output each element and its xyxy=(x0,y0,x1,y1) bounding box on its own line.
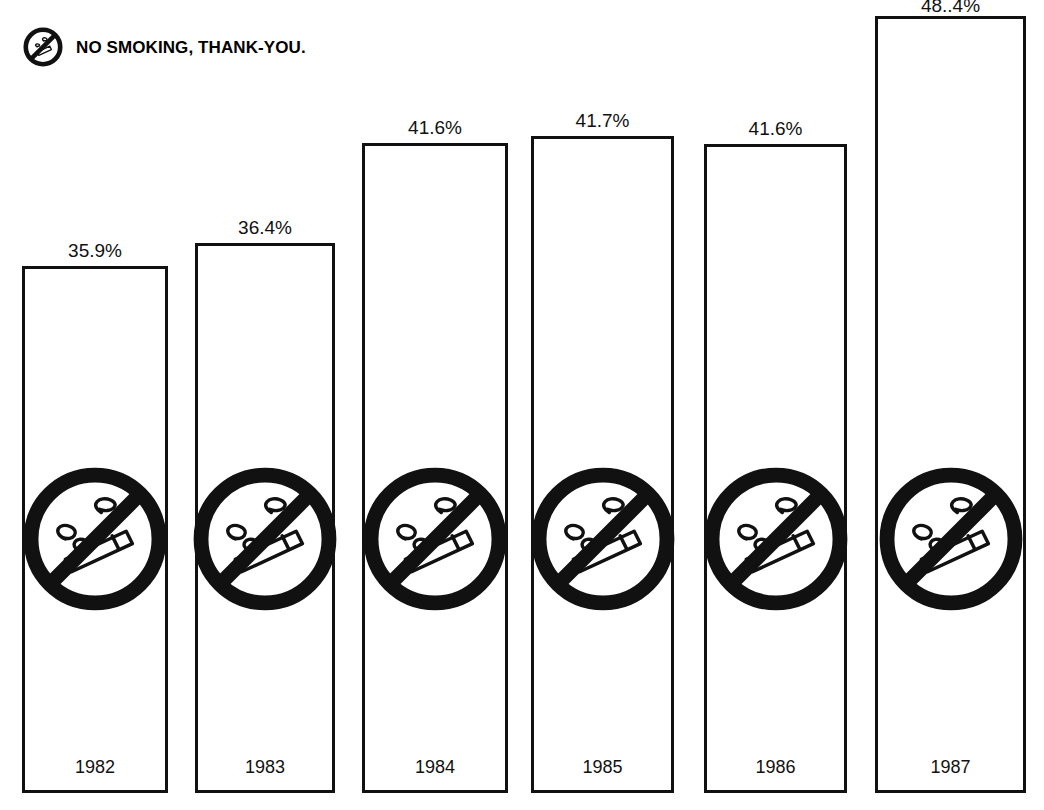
bar-group: 41.6% 1984 xyxy=(362,120,508,793)
bar-group: 36.4% 1983 xyxy=(195,220,335,793)
table-row[interactable]: 1983 xyxy=(195,243,335,793)
bar-group: 41.6% 1986 xyxy=(704,121,847,793)
bar-value-label: 41.6% xyxy=(704,119,847,138)
no-smoking-icon xyxy=(357,461,513,617)
bar-year-label: 1984 xyxy=(365,758,505,776)
bar-group: 35.9% 1982 xyxy=(22,243,168,793)
no-smoking-icon xyxy=(17,461,173,617)
no-smoking-icon xyxy=(873,461,1029,617)
bar-year-label: 1983 xyxy=(198,758,332,776)
bar-value-label: 36.4% xyxy=(195,218,335,237)
no-smoking-icon xyxy=(525,461,681,617)
bar-value-label: 41.6% xyxy=(362,118,508,137)
bar-value-label: 35.9% xyxy=(22,241,168,260)
bar-value-label: 41.7% xyxy=(531,111,674,130)
table-row[interactable]: 1987 xyxy=(875,16,1026,793)
bar-year-label: 1982 xyxy=(25,758,165,776)
bar-year-label: 1985 xyxy=(534,758,671,776)
table-row[interactable]: 1984 xyxy=(362,143,508,793)
no-smoking-icon xyxy=(187,461,343,617)
no-smoking-icon xyxy=(698,461,854,617)
bar-group: 48..4% 1987 xyxy=(875,0,1026,793)
bar-group: 41.7% 1985 xyxy=(531,113,674,793)
table-row[interactable]: 1985 xyxy=(531,136,674,793)
table-row[interactable]: 1982 xyxy=(22,266,168,793)
bar-chart: 35.9% 1982 36.4% xyxy=(0,0,1044,810)
bar-value-label: 48..4% xyxy=(875,0,1026,15)
table-row[interactable]: 1986 xyxy=(704,144,847,793)
bar-year-label: 1987 xyxy=(878,758,1023,776)
bar-year-label: 1986 xyxy=(707,758,844,776)
